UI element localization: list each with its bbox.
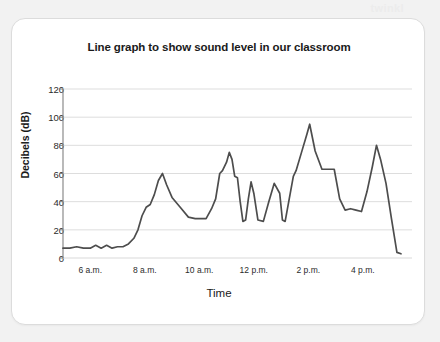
gridlines: [63, 89, 412, 258]
line-graph-svg: [12, 19, 426, 326]
axes: [60, 89, 64, 258]
watermark: twinkl: [370, 2, 404, 14]
plot-area: Decibels (dB) 020406080100120 6 a.m.8 a.…: [12, 19, 426, 326]
x-axis-title: Time: [12, 287, 426, 299]
chart-card: Line graph to show sound level in our cl…: [11, 18, 425, 325]
data-line: [63, 124, 401, 254]
data-line-series: [63, 124, 401, 254]
